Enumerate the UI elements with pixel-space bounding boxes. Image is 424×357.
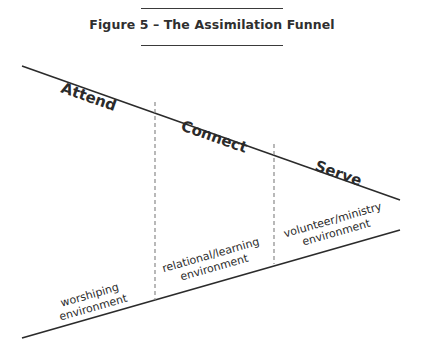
funnel-diagram: Attend Connect Serve worshiping environm… [0,0,424,357]
stage-label-connect: Connect [179,117,250,157]
funnel-bottom-edge [22,230,400,338]
stage-label-serve: Serve [313,157,365,190]
stage-label-attend: Attend [59,79,119,115]
